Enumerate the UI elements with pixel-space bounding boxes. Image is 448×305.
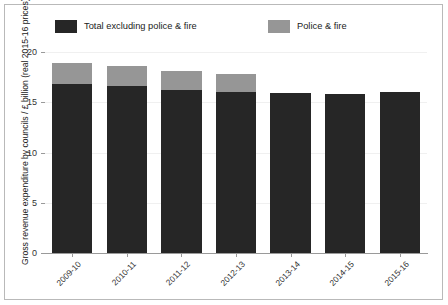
y-axis-tick-label: 5	[32, 198, 37, 208]
x-axis-tick-label: 2009-10	[52, 259, 83, 290]
bar-segment-total-excluding-police-fire[interactable]	[107, 86, 147, 253]
legend-item-total-excluding-police-fire[interactable]: Total excluding police & fire	[55, 17, 197, 35]
bar-segment-total-excluding-police-fire[interactable]	[270, 93, 310, 253]
plot-area	[45, 52, 427, 253]
x-axis-tick	[400, 253, 401, 257]
chart-figure: Total excluding police & fire Police & f…	[0, 0, 448, 305]
bar-segment-police-fire[interactable]	[161, 71, 201, 90]
x-axis-tick-label: 2012-13	[216, 259, 247, 290]
bar-segment-police-fire[interactable]	[216, 74, 256, 92]
x-axis-tick	[127, 253, 128, 257]
chart-legend: Total excluding police & fire Police & f…	[0, 17, 448, 35]
bar-stack[interactable]	[325, 52, 365, 253]
legend-item-police-fire[interactable]: Police & fire	[268, 17, 347, 35]
x-axis-tick	[181, 253, 182, 257]
y-axis-tick	[41, 153, 45, 154]
legend-label-police-fire: Police & fire	[297, 20, 347, 33]
y-axis-tick	[41, 203, 45, 204]
y-axis-tick-label: 15	[27, 97, 37, 107]
bar-segment-total-excluding-police-fire[interactable]	[380, 92, 420, 253]
bar-segment-total-excluding-police-fire[interactable]	[216, 92, 256, 253]
bar-stack[interactable]	[161, 52, 201, 253]
x-axis-tick	[236, 253, 237, 257]
x-axis-tick-label: 2010-11	[107, 259, 138, 290]
bar-segment-total-excluding-police-fire[interactable]	[161, 90, 201, 253]
bar-segment-total-excluding-police-fire[interactable]	[52, 84, 92, 253]
y-axis-tick	[41, 102, 45, 103]
y-axis-tick-label: 0	[32, 248, 37, 258]
x-axis-tick	[72, 253, 73, 257]
x-axis-tick-label: 2014-15	[325, 259, 356, 290]
bar-stack[interactable]	[107, 52, 147, 253]
y-axis-tick-label: 10	[27, 148, 37, 158]
x-axis-tick	[345, 253, 346, 257]
y-axis-tick	[41, 52, 45, 53]
x-axis-tick-label: 2015-16	[380, 259, 411, 290]
x-axis-tick	[291, 253, 292, 257]
legend-swatch-police-fire	[268, 20, 290, 33]
legend-swatch-total-excluding-police-fire	[55, 20, 77, 33]
bar-stack[interactable]	[216, 52, 256, 253]
legend-label-total-excluding-police-fire: Total excluding police & fire	[84, 20, 197, 33]
y-axis-tick	[41, 253, 45, 254]
bar-segment-police-fire[interactable]	[107, 66, 147, 86]
bar-segment-total-excluding-police-fire[interactable]	[325, 94, 365, 253]
bar-segment-police-fire[interactable]	[52, 63, 92, 84]
x-axis-tick-label: 2011-12	[161, 259, 192, 290]
y-axis-tick-label: 20	[27, 47, 37, 57]
x-axis-tick-label: 2013-14	[271, 259, 302, 290]
bar-stack[interactable]	[52, 52, 92, 253]
bar-stack[interactable]	[380, 52, 420, 253]
bar-stack[interactable]	[270, 52, 310, 253]
